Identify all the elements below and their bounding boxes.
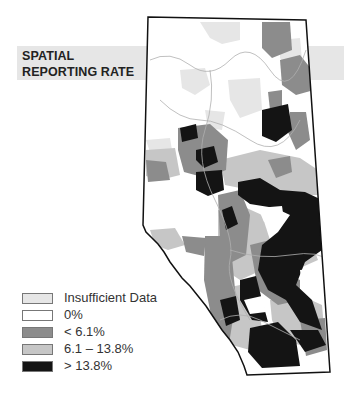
swatch-low	[22, 327, 53, 338]
title-line-1: SPATIAL	[22, 48, 134, 64]
legend-label: > 13.8%	[64, 358, 112, 373]
swatch-high	[22, 361, 53, 372]
legend-label: 6.1 – 13.8%	[64, 341, 133, 356]
swatch-insufficient	[22, 293, 53, 304]
map-title: SPATIAL REPORTING RATE	[22, 48, 134, 80]
legend-label: 0%	[64, 307, 83, 322]
swatch-zero	[22, 310, 53, 321]
title-line-2: REPORTING RATE	[22, 64, 134, 80]
legend-label: < 6.1%	[64, 324, 105, 339]
legend-label: Insufficient Data	[64, 290, 157, 305]
swatch-mid	[22, 344, 53, 355]
